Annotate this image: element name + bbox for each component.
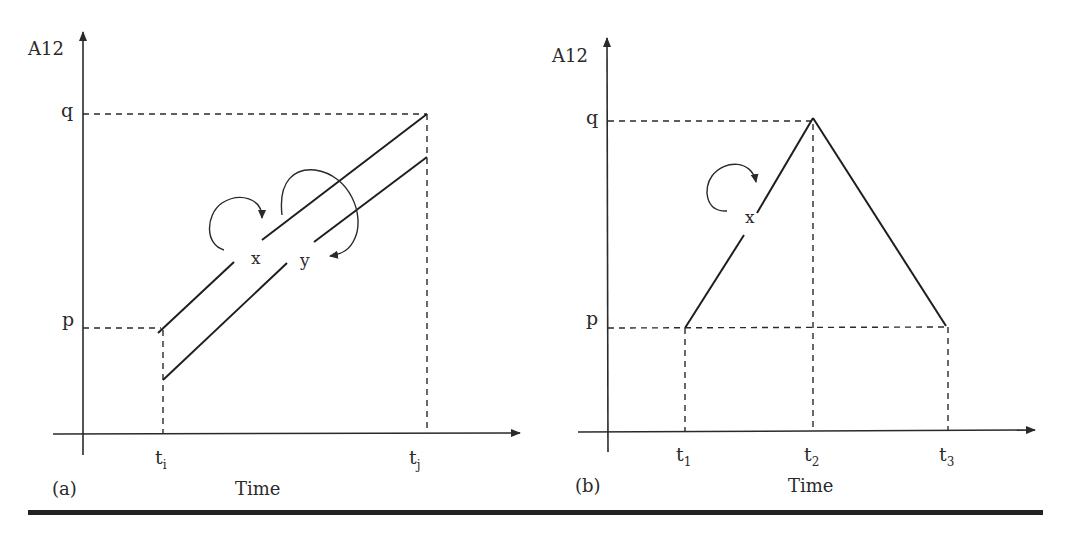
x-axis-label: Time bbox=[788, 475, 833, 496]
x-tick-t3: t3 bbox=[939, 443, 954, 469]
loop-arrow-x-icon bbox=[209, 198, 262, 250]
series-y-line-upper bbox=[314, 157, 427, 242]
series-x-fall bbox=[813, 118, 946, 326]
series-x-rise-lower bbox=[685, 235, 744, 328]
x-tick-t2: t2 bbox=[804, 443, 819, 469]
panel-caption-b: (b) bbox=[575, 475, 601, 496]
x-tick-t1: t1 bbox=[676, 443, 691, 469]
x-tick-ti: ti bbox=[155, 446, 167, 472]
figure-bottom-rule bbox=[28, 510, 1043, 515]
series-y-line-lower bbox=[163, 263, 287, 380]
series-x-label: x bbox=[745, 207, 755, 227]
x-tick-tj: tj bbox=[409, 446, 420, 472]
panel-a: x y A12 q p ti tj (a) Time bbox=[27, 32, 520, 499]
series-x-line-lower bbox=[158, 262, 234, 333]
loop-arrow-y-icon bbox=[281, 170, 358, 256]
y-tick-q: q bbox=[586, 106, 598, 128]
y-axis bbox=[607, 38, 608, 452]
loop-arrow-x-icon bbox=[707, 164, 756, 211]
series-y-label: y bbox=[299, 250, 310, 270]
series-x-label: x bbox=[251, 248, 261, 268]
x-axis bbox=[578, 430, 1035, 432]
series-x-line-upper bbox=[262, 114, 427, 240]
p-guide bbox=[608, 327, 946, 328]
panel-caption-a: (a) bbox=[52, 478, 77, 499]
panel-b: x A12 q p t1 t2 t3 (b) Time bbox=[551, 38, 1035, 496]
y-tick-p: p bbox=[62, 308, 74, 330]
y-tick-p: p bbox=[586, 307, 598, 329]
x-axis-label: Time bbox=[235, 478, 280, 499]
series-x-rise-upper bbox=[757, 118, 813, 213]
y-axis-label: A12 bbox=[551, 45, 588, 66]
y-tick-q: q bbox=[61, 99, 73, 121]
figure: x y A12 q p ti tj (a) Time x A12 q p t1 bbox=[0, 0, 1069, 541]
x-axis bbox=[53, 433, 520, 434]
y-axis-label: A12 bbox=[27, 38, 64, 59]
